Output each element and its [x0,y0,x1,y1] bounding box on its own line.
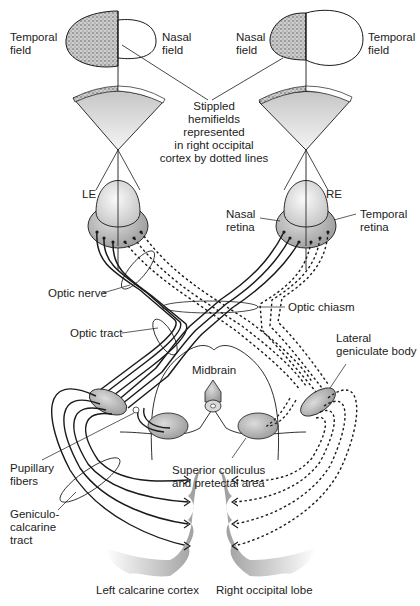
label-temporal-retina: Temporalretina [360,208,407,234]
midbrain [120,346,306,461]
label-left-eye: LE [82,188,96,201]
label-right-nasal-field: Nasalfield [236,31,265,57]
label-left-calcarine-cortex: Left calcarine cortex [96,584,199,597]
label-geniculocalcarine-tract: Geniculo-calcarine tract [10,508,59,547]
label-lateral-geniculate-body: Lateralgeniculate body [336,332,417,358]
label-pupillary-fibers: Pupillaryfibers [10,462,54,488]
label-left-temporal-field: Temporalfield [10,31,57,57]
label-optic-chiasm: Optic chiasm [288,301,354,314]
visual-pathway-diagram [0,0,420,606]
optic-chiasm-ring [162,301,258,313]
label-stippled-note: Stippledhemifields representedin right o… [152,100,276,165]
label-midbrain: Midbrain [192,364,236,377]
label-right-temporal-field: Temporalfield [368,31,415,57]
label-left-nasal-field: Nasalfield [162,31,191,57]
label-optic-nerve: Optic nerve [48,287,107,300]
left-superior-colliculus [148,413,188,439]
label-nasal-retina: Nasalretina [226,208,255,234]
right-superior-colliculus [238,413,278,439]
label-superior-colliculus: Superior colliculusand pretectal area [172,464,265,490]
label-right-occipital-lobe: Right occipital lobe [216,584,313,597]
optic-tract-ring [148,316,182,359]
label-optic-tract: Optic tract [70,327,122,340]
label-right-eye: RE [326,188,342,201]
solid-fibers [97,232,299,408]
